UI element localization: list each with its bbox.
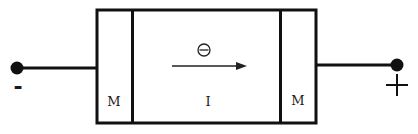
left-polarity-label: -: [13, 73, 22, 99]
right-terminal: [316, 59, 408, 97]
left-metal-label: M: [107, 94, 120, 109]
insulator-label: I: [205, 94, 210, 109]
right-metal-label: M: [291, 93, 304, 108]
left-terminal: -: [11, 62, 98, 100]
mim-junction-diagram: - M I M: [0, 0, 418, 134]
electron-icon: [198, 44, 210, 56]
plus-icon: [386, 74, 408, 96]
electron-flow-arrow-icon: [172, 62, 247, 70]
right-terminal-dot-icon: [391, 59, 404, 72]
